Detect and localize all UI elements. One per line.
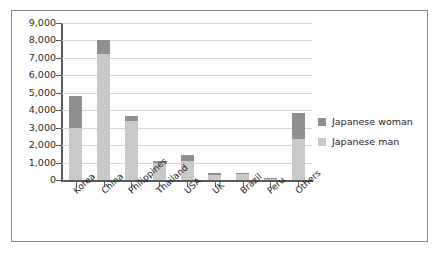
bar-china[interactable] xyxy=(97,40,110,180)
y-axis-tick-label: 8,000 xyxy=(14,35,56,45)
bar-segment-japanese-woman xyxy=(69,96,82,127)
y-axis-tick-label: 9,000 xyxy=(14,18,56,28)
y-axis-tick-label: 2,000 xyxy=(14,140,56,150)
legend-item[interactable]: Japanese woman xyxy=(318,116,426,127)
chart-legend: Japanese womanJapanese man xyxy=(318,116,426,156)
bar-others[interactable] xyxy=(292,113,305,180)
y-axis-tick-label: 1,000 xyxy=(14,158,56,168)
bar-segment-japanese-woman xyxy=(208,173,221,175)
bar-segment-japanese-man xyxy=(292,139,305,180)
y-axis-tick-label: 6,000 xyxy=(14,70,56,80)
bar-segment-japanese-man xyxy=(97,54,110,180)
gridline xyxy=(62,23,312,24)
bar-segment-japanese-woman xyxy=(181,155,194,161)
bar-segment-japanese-man xyxy=(125,121,138,180)
legend-swatch-icon xyxy=(318,118,326,126)
legend-swatch-icon xyxy=(318,138,326,146)
chart-frame: 9,0008,0007,0006,0005,0004,0003,0002,000… xyxy=(11,10,428,242)
y-axis-tick-label: 5,000 xyxy=(14,88,56,98)
y-axis-tick-label: 0 xyxy=(14,175,56,185)
legend-label: Japanese man xyxy=(332,136,399,147)
bar-philippines[interactable] xyxy=(125,116,138,180)
bar-segment-japanese-woman xyxy=(236,173,249,175)
bar-segment-japanese-woman xyxy=(292,113,305,139)
bar-segment-japanese-woman xyxy=(97,40,110,54)
category-label-uk: UK xyxy=(211,181,226,196)
bar-segment-japanese-man xyxy=(69,128,82,180)
bar-korea[interactable] xyxy=(69,96,82,180)
bar-segment-japanese-woman xyxy=(125,116,138,120)
y-axis-tick-label: 4,000 xyxy=(14,105,56,115)
y-axis-tick-label: 7,000 xyxy=(14,53,56,63)
plot-area xyxy=(62,23,312,180)
legend-label: Japanese woman xyxy=(332,116,413,127)
y-axis-labels: 9,0008,0007,0006,0005,0004,0003,0002,000… xyxy=(12,11,56,193)
y-axis-tick-label: 3,000 xyxy=(14,123,56,133)
legend-item[interactable]: Japanese man xyxy=(318,136,426,147)
